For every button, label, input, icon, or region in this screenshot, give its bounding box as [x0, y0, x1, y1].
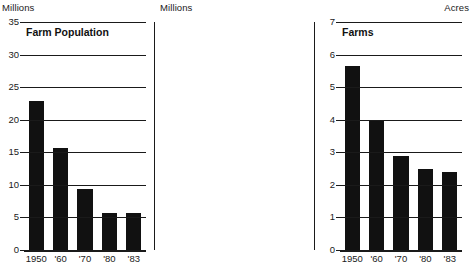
- y-tick-mark: [20, 250, 24, 251]
- y-tick-label: 0: [14, 245, 19, 255]
- unit-caption-millions: Millions: [160, 2, 192, 13]
- x-axis-labels-farm-population: 1950'60'70'80'83: [24, 253, 146, 269]
- y-tick-label: 30: [8, 50, 19, 60]
- x-tick-label: '70: [73, 253, 97, 264]
- bar: [102, 213, 117, 250]
- gridline: [24, 55, 146, 56]
- panel-divider-1: [154, 22, 155, 250]
- gridline: [24, 185, 146, 186]
- bar: [29, 101, 44, 250]
- chart-panel-average-farm-size: Acres Average Farm Size 0100200300400500…: [318, 0, 470, 275]
- y-tick-label: 5: [14, 212, 19, 222]
- gridline: [24, 152, 146, 153]
- unit-caption-acres: Acres: [444, 2, 469, 13]
- bar: [77, 189, 92, 250]
- panel-divider-2: [314, 22, 315, 250]
- y-tick-label: 20: [8, 115, 19, 125]
- y-tick-mark: [20, 22, 24, 23]
- x-tick-label: '80: [97, 253, 121, 264]
- y-tick-mark: [20, 217, 24, 218]
- gridline: [24, 22, 146, 23]
- bar: [53, 148, 68, 250]
- y-tick-mark: [20, 87, 24, 88]
- chart-panel-farm-population: Millions Farm Population 05101520253035 …: [0, 0, 152, 275]
- y-tick-mark: [20, 152, 24, 153]
- gridline: [24, 120, 146, 121]
- x-tick-label: '83: [122, 253, 146, 264]
- y-tick-mark: [20, 185, 24, 186]
- y-tick-mark: [20, 55, 24, 56]
- farm-statistics-figure: Millions Farm Population 05101520253035 …: [0, 0, 470, 275]
- y-tick-label: 10: [8, 180, 19, 190]
- unit-caption-millions: Millions: [2, 2, 34, 13]
- x-tick-label: 1950: [24, 253, 48, 264]
- axis-baseline: [24, 250, 146, 252]
- bar-group-farm-population: [24, 22, 146, 250]
- y-tick-label: 25: [8, 82, 19, 92]
- x-tick-label: '60: [48, 253, 72, 264]
- gridline: [24, 87, 146, 88]
- chart-panel-farms: Millions Farms 01234567 1950'60'70'80'83: [158, 0, 310, 275]
- y-tick-label: 35: [8, 17, 19, 27]
- bar: [126, 213, 141, 250]
- gridline: [24, 217, 146, 218]
- y-tick-mark: [20, 120, 24, 121]
- plot-area-farm-population: 05101520253035: [24, 22, 146, 250]
- y-tick-label: 15: [8, 147, 19, 157]
